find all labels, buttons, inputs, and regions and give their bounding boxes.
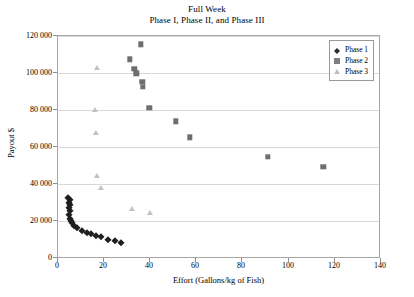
data-point-phase-3 [94,65,100,70]
x-tick-label-20: 20 [88,262,118,270]
legend-label: Phase 1 [345,45,368,54]
y-tick-label-100000: 100 000 [4,69,52,77]
chart-container: Full Week Phase I, Phase II, and Phase I… [0,0,414,297]
x-axis-title: Effort (Gallons/kg of Fish) [57,275,380,285]
gridline [58,184,379,185]
data-point-phase-2 [321,164,326,169]
square-marker-icon [334,57,341,64]
data-point-phase-3 [92,107,98,112]
data-point-phase-2 [140,79,145,84]
x-tick-label-140: 140 [365,262,395,270]
y-tick-label-20000: 20 000 [4,217,52,225]
legend-item-phase-2[interactable]: Phase 2 [334,55,368,66]
chart-title-line-2: Phase I, Phase II, and Phase III [0,15,414,26]
data-point-phase-3 [147,211,153,216]
legend-item-phase-1[interactable]: Phase 1 [334,44,368,55]
y-tick-label-40000: 40 000 [4,180,52,188]
gridline [58,147,379,148]
data-point-phase-2 [173,119,178,124]
x-tick-mark [195,258,196,262]
triangle-marker-icon [334,68,341,75]
data-point-phase-3 [129,206,135,211]
legend-label: Phase 3 [345,67,368,76]
data-point-phase-2 [146,105,151,110]
diamond-marker-icon [334,46,341,53]
y-tick-label-60000: 60 000 [4,143,52,151]
gridline [58,110,379,111]
x-tick-label-80: 80 [226,262,256,270]
y-tick-label-120000: 120 000 [4,32,52,40]
y-tick-label-0: 0 [4,254,52,262]
chart-title: Full Week Phase I, Phase II, and Phase I… [0,4,414,26]
data-point-phase-2 [138,42,143,47]
x-tick-label-120: 120 [319,262,349,270]
x-tick-label-0: 0 [42,262,72,270]
data-point-phase-3 [93,130,99,135]
data-point-phase-2 [140,84,145,89]
x-tick-label-100: 100 [273,262,303,270]
legend: Phase 1 Phase 2 Phase 3 [329,40,374,81]
x-tick-label-40: 40 [134,262,164,270]
x-tick-mark [334,258,335,262]
x-tick-mark [103,258,104,262]
x-tick-mark [149,258,150,262]
x-tick-label-60: 60 [180,262,210,270]
data-point-phase-1 [118,239,126,247]
data-point-phase-3 [98,185,104,190]
data-point-phase-2 [127,57,132,62]
x-tick-mark [380,258,381,262]
legend-item-phase-3[interactable]: Phase 3 [334,66,368,77]
x-tick-mark [57,258,58,262]
chart-title-line-1: Full Week [0,4,414,15]
data-point-phase-3 [94,173,100,178]
gridline [58,221,379,222]
x-tick-mark [241,258,242,262]
data-point-phase-2 [134,70,139,75]
data-point-phase-2 [265,154,270,159]
x-tick-mark [288,258,289,262]
y-tick-label-80000: 80 000 [4,106,52,114]
gridline [58,36,379,37]
data-point-phase-2 [187,135,192,140]
legend-label: Phase 2 [345,56,368,65]
